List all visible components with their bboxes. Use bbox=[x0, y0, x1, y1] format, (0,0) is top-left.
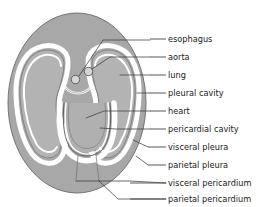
aorta-circle bbox=[84, 67, 92, 75]
anatomy-diagram-page: esophagus aorta lung pleural cavity hear… bbox=[0, 0, 280, 207]
leader-parietal-pleura bbox=[136, 156, 148, 165]
label-pericardial-cavity: pericardial cavity bbox=[168, 124, 239, 134]
labels-group: esophagus aorta lung pleural cavity hear… bbox=[130, 34, 251, 204]
thoracic-cross-section-diagram: esophagus aorta lung pleural cavity hear… bbox=[0, 0, 280, 207]
label-parietal-pleura: parietal pleura bbox=[168, 160, 228, 170]
label-visceral-pleura: visceral pleura bbox=[168, 142, 228, 152]
label-aorta: aorta bbox=[168, 52, 190, 62]
leader-parietal-pericardium bbox=[99, 181, 166, 199]
label-esophagus: esophagus bbox=[168, 34, 212, 44]
heart-myocardium bbox=[66, 103, 107, 152]
label-heart: heart bbox=[168, 106, 191, 116]
esophagus-circle bbox=[71, 75, 79, 83]
label-pleural-cavity: pleural cavity bbox=[168, 88, 224, 98]
label-lung: lung bbox=[168, 70, 186, 80]
label-parietal-pericardium: parietal pericardium bbox=[168, 194, 251, 204]
label-visceral-pericardium: visceral pericardium bbox=[168, 178, 251, 188]
